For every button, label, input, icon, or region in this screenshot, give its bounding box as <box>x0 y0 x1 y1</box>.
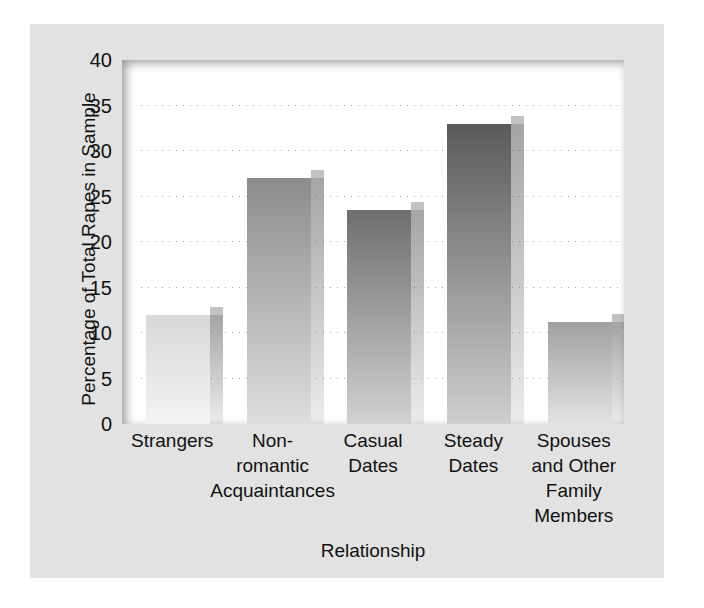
bar-top-shadow <box>311 170 324 178</box>
bar <box>447 124 511 424</box>
x-axis-title: Relationship <box>122 540 624 562</box>
gridline <box>138 105 620 106</box>
gridline <box>138 150 620 151</box>
x-tick-label-line: Family <box>510 478 638 503</box>
bar <box>146 315 210 424</box>
x-tick-label-line: Spouses <box>510 428 638 453</box>
y-axis-tick-labels: 40 35 30 25 20 15 10 5 0 <box>66 24 112 578</box>
y-tick-label: 30 <box>66 140 112 163</box>
bar-top-shadow <box>511 116 524 124</box>
y-tick-label: 40 <box>66 49 112 72</box>
y-tick-label: 10 <box>66 322 112 345</box>
bar-top-shadow <box>612 314 624 322</box>
y-tick-label: 20 <box>66 231 112 254</box>
y-tick-label: 35 <box>66 94 112 117</box>
x-tick-label: Spousesand OtherFamilyMembers <box>510 428 638 528</box>
bar <box>548 322 612 424</box>
bar-side-shadow <box>411 210 424 424</box>
bar-face <box>247 178 311 424</box>
bar-top-shadow <box>210 307 223 315</box>
bar-face <box>447 124 511 424</box>
bar-face <box>548 322 612 424</box>
bar-side-shadow <box>311 178 324 424</box>
bar-side-shadow <box>612 322 624 424</box>
bar-face <box>347 210 411 424</box>
y-tick-label: 5 <box>66 367 112 390</box>
bar-face <box>146 315 210 424</box>
bar-side-shadow <box>210 315 223 424</box>
x-axis-tick-labels: StrangersNon-romanticAcquaintancesCasual… <box>122 428 624 538</box>
plot-inner <box>122 60 624 424</box>
chart-figure: Percentage of Total Rapes in Sample 40 3… <box>30 24 664 578</box>
bar <box>347 210 411 424</box>
y-tick-label: 15 <box>66 276 112 299</box>
x-tick-label-line: Members <box>510 503 638 528</box>
bar-top-shadow <box>411 202 424 210</box>
bar-side-shadow <box>511 124 524 424</box>
gridline <box>138 196 620 197</box>
y-tick-label: 0 <box>66 413 112 436</box>
bar <box>247 178 311 424</box>
x-tick-label-line: and Other <box>510 453 638 478</box>
plot-area <box>122 60 624 424</box>
x-tick-label-line: Acquaintances <box>208 478 336 503</box>
y-tick-label: 25 <box>66 185 112 208</box>
